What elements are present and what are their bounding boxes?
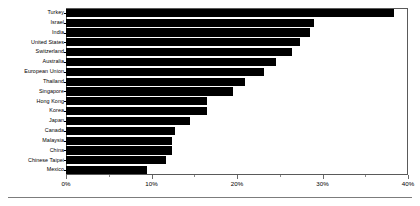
x-axis-minor-tick xyxy=(280,175,281,177)
x-axis-tick xyxy=(408,175,409,179)
bar-row: Singapore xyxy=(0,87,420,97)
bar xyxy=(66,166,147,174)
bar xyxy=(66,28,310,36)
x-axis-tick xyxy=(237,175,238,179)
x-axis-tick-label: 0% xyxy=(46,180,86,187)
x-axis-tick-label: 40% xyxy=(388,180,420,187)
bar-rows: TurkeyIsraelIndiaUnited StatesSwitzerlan… xyxy=(0,8,420,175)
bar xyxy=(66,107,207,115)
x-axis-tick-label: 10% xyxy=(132,180,172,187)
bar-row: Korea xyxy=(0,106,420,116)
bar-row: Thailand xyxy=(0,77,420,87)
category-label: Hong Kong xyxy=(0,99,64,104)
bar xyxy=(66,38,300,46)
category-label: Malaysia xyxy=(0,138,64,143)
bar xyxy=(66,97,207,105)
category-label: European Union xyxy=(0,69,64,74)
bar-row: Canada xyxy=(0,126,420,136)
category-label: Israel xyxy=(0,20,64,25)
x-axis-tick xyxy=(323,175,324,179)
x-axis-tick-label: 20% xyxy=(217,180,257,187)
bottom-divider xyxy=(8,197,412,198)
category-label: Switzerland xyxy=(0,49,64,54)
bar xyxy=(66,87,233,95)
bar-row: China xyxy=(0,146,420,156)
category-label: United States xyxy=(0,40,64,45)
category-label: India xyxy=(0,30,64,35)
bar-row: European Union xyxy=(0,67,420,77)
category-label: Chinese Taipei xyxy=(0,158,64,163)
bar-row: Hong Kong xyxy=(0,96,420,106)
x-axis-tick xyxy=(152,175,153,179)
bar xyxy=(66,117,190,125)
bar xyxy=(66,127,175,135)
bar-row: Japan xyxy=(0,116,420,126)
x-axis-minor-tick xyxy=(365,175,366,177)
bar xyxy=(66,58,276,66)
category-label: Singapore xyxy=(0,89,64,94)
bar-row: Turkey xyxy=(0,8,420,18)
category-label: Turkey xyxy=(0,10,64,15)
bar-row: Mexico xyxy=(0,165,420,175)
bar-row: Australia xyxy=(0,57,420,67)
x-axis-tick-label: 30% xyxy=(303,180,343,187)
bar xyxy=(66,156,166,164)
bar xyxy=(66,78,245,86)
x-axis-minor-tick xyxy=(109,175,110,177)
x-axis-minor-tick xyxy=(194,175,195,177)
category-label: China xyxy=(0,148,64,153)
bar-row: Israel xyxy=(0,18,420,28)
bar xyxy=(66,137,172,145)
category-label: Korea xyxy=(0,108,64,113)
bar-row: United States xyxy=(0,37,420,47)
bar-row: India xyxy=(0,28,420,38)
category-label: Canada xyxy=(0,128,64,133)
bar-row: Chinese Taipei xyxy=(0,155,420,165)
category-label: Mexico xyxy=(0,167,64,172)
bar-row: Malaysia xyxy=(0,136,420,146)
category-label: Thailand xyxy=(0,79,64,84)
category-label: Japan xyxy=(0,118,64,123)
bar xyxy=(66,68,264,76)
bar-row: Switzerland xyxy=(0,47,420,57)
bar xyxy=(66,19,314,27)
category-label: Australia xyxy=(0,59,64,64)
bar xyxy=(66,48,292,56)
x-axis-tick xyxy=(66,175,67,179)
bar xyxy=(66,146,172,154)
bar xyxy=(66,9,394,17)
bar-chart: TurkeyIsraelIndiaUnited StatesSwitzerlan… xyxy=(0,0,420,206)
